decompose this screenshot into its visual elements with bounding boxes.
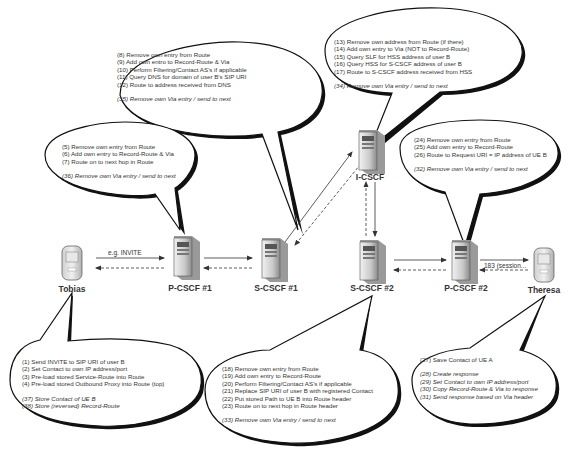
response-step: (37) Store Contact of UE B — [22, 395, 164, 402]
step: (7) Route on to next hop in Route — [62, 158, 176, 165]
step: (1) Send INVITE to SIP URI of user B — [22, 358, 164, 365]
step: (10) Perform Filtering/Contact AS's if a… — [117, 66, 247, 73]
response-step: (29) Set Contact to own IP address/port — [420, 378, 538, 385]
node-label-scscf1: S-CSCF #1 — [246, 283, 306, 293]
node-label-icscf: I-CSCF — [345, 172, 395, 182]
step: (21) Replace SIP URI of user B with regi… — [222, 387, 373, 394]
step: (19) Add own entry to Record-Route — [222, 372, 373, 379]
step: (23) Route on to next hop in Route heade… — [222, 402, 373, 409]
response-step: (36) Remove own Via entry / send to next — [62, 172, 176, 179]
step: (26) Route to Request URI = IP address o… — [414, 151, 547, 158]
node-label-theresa: Theresa — [522, 285, 566, 295]
bubble-text-theresa: (27) Save Contact of UE A (28) Create re… — [420, 356, 538, 400]
server-icon[interactable] — [262, 238, 288, 282]
response-step: (30) Copy Record-Route & Via to response — [420, 385, 538, 392]
step: (5) Remove own entry from Route — [62, 143, 176, 150]
bubble-text-icscf: (13) Remove own address from Route (if t… — [334, 38, 472, 89]
bubble-text-scscf1: (8) Remove own entry from Route (9) Add … — [117, 51, 247, 102]
node-label-scscf2: S-CSCF #2 — [342, 283, 402, 293]
step: (24) Remove own entry from Route — [414, 136, 547, 143]
step: (13) Remove own address from Route (if t… — [334, 38, 472, 45]
step: (14) Add own entry to Via (NOT to Record… — [334, 45, 472, 52]
bubble-text-scscf2: (18) Remove own entry from Route (19) Ad… — [222, 365, 373, 424]
node-label-pcscf1: P-CSCF #1 — [160, 283, 220, 293]
arrow-scscf1-to-icscf — [285, 152, 352, 242]
node-label-tobias: Tobias — [54, 284, 90, 294]
server-icon[interactable] — [452, 240, 478, 284]
message-label-request: e.g. INVITE — [108, 249, 142, 256]
phone-icon[interactable] — [534, 248, 554, 282]
response-step: (31) Send response based on Via header — [420, 393, 538, 400]
step: (16) Query HSS for S-CSCF address of use… — [334, 60, 472, 67]
server-icon[interactable] — [174, 236, 200, 280]
step: (27) Save Contact of UE A — [420, 356, 538, 363]
server-icon[interactable] — [359, 130, 385, 174]
step: (8) Remove own entry from Route — [117, 51, 247, 58]
response-step: (38) Store (reversed) Record-Route — [22, 402, 164, 409]
response-step: (33) Remove own Via entry / send to next — [222, 416, 373, 423]
bubble-text-tobias: (1) Send INVITE to SIP URI of user B (2)… — [22, 358, 164, 409]
server-icon[interactable] — [360, 240, 386, 284]
response-step: (28) Create response — [420, 370, 538, 377]
step: (17) Route to S-CSCF address received fr… — [334, 68, 472, 75]
message-label-response: 183 (session... — [484, 262, 526, 269]
step: (4) Pre-load stored Outbound Proxy into … — [22, 380, 164, 387]
step: (20) Perform Filtering/Contact AS's if a… — [222, 380, 373, 387]
step: (11) Query DNS for domain of user B's SI… — [117, 73, 247, 80]
step: (9) Add own entro to Record-Route & Via — [117, 58, 247, 65]
step: (12) Route to address received from DNS — [117, 81, 247, 88]
step: (25) Add own entry to Record-Route — [414, 143, 547, 150]
step: (6) Add own entry to Record-Route & Via — [62, 150, 176, 157]
response-step: (35) Remove own Via entry / send to next — [117, 95, 247, 102]
bubble-text-pcscf1: (5) Remove own entry from Route (6) Add … — [62, 143, 176, 180]
step: (22) Put stored Path to UE B into Route … — [222, 395, 373, 402]
bubble-text-pcscf2: (24) Remove own entry from Route (25) Ad… — [414, 136, 547, 173]
step: (3) Pre-load stored Service-Route into R… — [22, 373, 164, 380]
response-step: (34) Remove own Via entry / send to next — [334, 82, 472, 89]
step: (18) Remove own entry from Route — [222, 365, 373, 372]
response-step: (32) Remove own Via entry / send to next — [414, 165, 547, 172]
step: (15) Query SLF for HSS address of user B — [334, 53, 472, 60]
step: (2) Set Contact to own IP address/port — [22, 365, 164, 372]
phone-icon[interactable] — [62, 246, 82, 280]
node-label-pcscf2: P-CSCF #2 — [436, 283, 496, 293]
